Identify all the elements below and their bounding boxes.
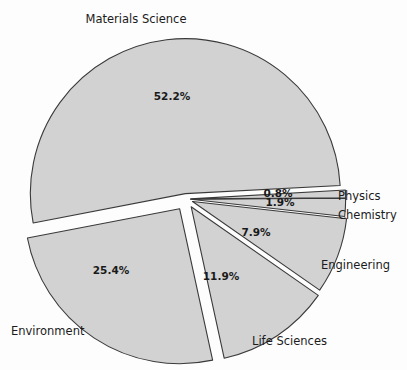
- pie-category-label-engineering: Engineering: [321, 258, 390, 272]
- pie-category-label-environment: Environment: [11, 324, 85, 338]
- pie-percent-label-materials-science: 52.2%: [154, 90, 191, 102]
- pie-percent-label-engineering: 7.9%: [241, 226, 271, 238]
- pie-chart-figure: 52.2%25.4%11.9%7.9%1.9%0.8% Materials Sc…: [0, 0, 407, 370]
- pie-percent-label-life-sciences: 11.9%: [203, 270, 240, 282]
- pie-chart-canvas: 52.2%25.4%11.9%7.9%1.9%0.8% Materials Sc…: [0, 0, 407, 370]
- pie-category-label-life-sciences: Life Sciences: [252, 334, 327, 348]
- pie-percent-label-physics: 0.8%: [263, 187, 293, 199]
- pie-category-label-materials-science: Materials Science: [86, 12, 187, 26]
- pie-category-label-chemistry: Chemistry: [338, 208, 397, 222]
- pie-category-label-physics: Physics: [338, 189, 381, 203]
- pie-percent-label-environment: 25.4%: [93, 264, 130, 276]
